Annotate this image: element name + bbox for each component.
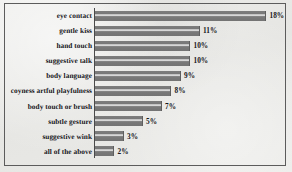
chart-plot-area: eye contact18%gentle kiss11%hand touch10… — [4, 3, 286, 166]
bar-value-label: 10% — [194, 54, 209, 68]
bar-category-label: body touch or brush — [28, 100, 92, 114]
bar-row: coyness artful playfulness8% — [4, 84, 286, 98]
bar-value-label: 10% — [194, 39, 209, 53]
bar-value-label: 3% — [127, 130, 138, 144]
bar — [95, 41, 190, 51]
bar-row: all of the above2% — [4, 145, 286, 159]
bar — [95, 56, 190, 66]
bar-row: hand touch10% — [4, 39, 286, 53]
bar — [95, 11, 266, 21]
bar-row: body touch or brush7% — [4, 100, 286, 114]
bar-row: suggestive wink3% — [4, 130, 286, 144]
bar-value-label: 5% — [146, 115, 157, 129]
bar-category-label: suggestive talk — [46, 54, 92, 68]
bar-category-label: hand touch — [56, 39, 92, 53]
bar — [95, 101, 162, 111]
bar-category-label: body language — [46, 69, 92, 83]
bar-category-label: subtle gesture — [48, 115, 92, 129]
bar-row: eye contact18% — [4, 9, 286, 23]
bar-row: suggestive talk10% — [4, 54, 286, 68]
bar-row: subtle gesture5% — [4, 115, 286, 129]
bar-rows: eye contact18%gentle kiss11%hand touch10… — [4, 9, 286, 160]
bar — [95, 116, 143, 126]
bar-value-label: 8% — [175, 84, 186, 98]
bar — [95, 26, 200, 36]
bar-value-label: 11% — [203, 24, 217, 38]
bar — [95, 86, 171, 96]
bar-category-label: coyness artful playfulness — [11, 84, 92, 98]
bar — [95, 71, 181, 81]
bar — [95, 131, 124, 141]
bar — [95, 146, 114, 156]
bar-category-label: suggestive wink — [42, 130, 92, 144]
bar-category-label: gentle kiss — [59, 24, 92, 38]
bar-category-label: all of the above — [44, 145, 92, 159]
bar-category-label: eye contact — [57, 9, 92, 23]
bar-value-label: 9% — [184, 69, 195, 83]
bar-value-label: 18% — [270, 9, 285, 23]
chart-page: eye contact18%gentle kiss11%hand touch10… — [0, 0, 292, 172]
bar-value-label: 7% — [165, 100, 176, 114]
bar-value-label: 2% — [118, 145, 129, 159]
bar-row: body language9% — [4, 69, 286, 83]
bar-row: gentle kiss11% — [4, 24, 286, 38]
